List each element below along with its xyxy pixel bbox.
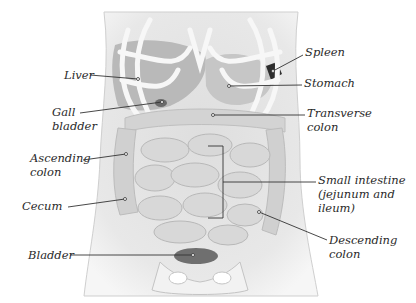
- label-cecum: Cecum: [22, 199, 62, 213]
- label-stomach: Stomach: [304, 76, 355, 90]
- label-transverse-colon: Transverse colon: [307, 106, 372, 134]
- label-bladder: Bladder: [28, 248, 74, 262]
- label-small-intestine: Small intestine (jejunum and ileum): [318, 173, 406, 215]
- label-liver: Liver: [64, 68, 94, 82]
- label-ascending-colon: Ascending colon: [30, 151, 91, 179]
- label-descending-colon: Descending colon: [329, 233, 397, 261]
- label-spleen: Spleen: [305, 45, 345, 59]
- bladder-shape: [174, 248, 218, 264]
- abdomen-diagram: Liver Gall bladder Spleen Stomach Transv…: [0, 0, 416, 303]
- label-gall-bladder: Gall bladder: [52, 105, 97, 133]
